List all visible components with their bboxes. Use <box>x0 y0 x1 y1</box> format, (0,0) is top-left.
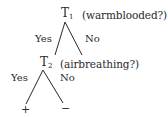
node-t2: T2 <box>40 56 52 70</box>
node-t1-subscript: 1 <box>69 13 73 21</box>
leaf-minus: − <box>61 103 70 114</box>
edge-t1-no <box>65 22 82 55</box>
edge-t2-no-label: No <box>60 73 75 83</box>
node-t2-question: (airbreathing?) <box>60 59 139 70</box>
decision-tree-diagram: T1 (warmblooded?) Yes No T2 (airbreathin… <box>0 0 168 117</box>
leaf-plus: + <box>21 104 30 115</box>
node-t2-label: T <box>40 55 48 69</box>
node-t1-label: T <box>61 6 69 20</box>
edge-t1-yes-label: Yes <box>35 34 52 44</box>
edge-t1-no-label: No <box>85 34 100 44</box>
edge-t2-yes-label: Yes <box>11 73 28 83</box>
node-t1-question: (warmblooded?) <box>82 10 167 21</box>
node-t1: T1 <box>61 7 73 21</box>
edge-t1-yes <box>55 22 65 55</box>
edge-t2-yes <box>26 70 43 104</box>
node-t2-subscript: 2 <box>48 62 52 70</box>
